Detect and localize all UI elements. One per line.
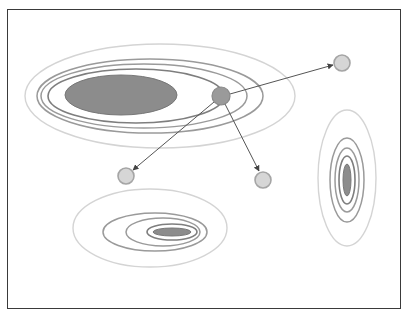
center-node (212, 87, 230, 105)
small-horizontal-cluster (73, 189, 227, 267)
vertical-cluster (318, 110, 376, 246)
arrow-to-target-bottom-mid (225, 104, 259, 171)
cluster-core (65, 75, 177, 115)
cluster-core (153, 228, 191, 236)
arrow-to-target-top-right (230, 65, 333, 94)
cluster-core (343, 164, 351, 196)
cluster-diagram (0, 0, 412, 318)
clusters-layer (25, 44, 376, 267)
target-bottom-left-node (118, 168, 134, 184)
large-horizontal-cluster (25, 44, 295, 148)
edges-layer (133, 65, 333, 171)
target-bottom-mid-node (255, 172, 271, 188)
target-top-right-node (334, 55, 350, 71)
